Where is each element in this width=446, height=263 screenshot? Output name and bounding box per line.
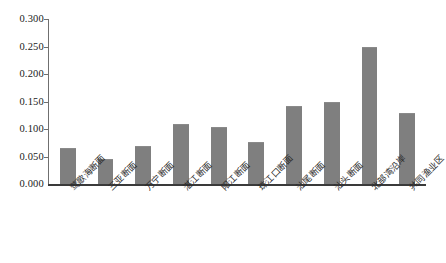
bar-slot [173, 19, 189, 184]
y-axis-tick-mark [44, 19, 49, 20]
bar-slot [135, 19, 151, 184]
bar[interactable] [362, 47, 378, 184]
bar[interactable] [173, 124, 189, 184]
bar-slot [324, 19, 340, 184]
bar-slot [248, 19, 264, 184]
bar[interactable] [324, 102, 340, 184]
y-axis-tick-mark [44, 47, 49, 48]
y-axis-tick-label: 0.200 [0, 69, 44, 80]
bar[interactable] [211, 127, 227, 184]
y-axis-tick-mark [44, 102, 49, 103]
y-axis-tick-mark [44, 74, 49, 75]
bar[interactable] [399, 113, 415, 184]
y-axis-tick-mark [44, 157, 49, 158]
y-axis-tick-label: 0.150 [0, 96, 44, 107]
bar-slot [362, 19, 378, 184]
y-axis-tick-label: 0.250 [0, 41, 44, 52]
bar-slot [211, 19, 227, 184]
x-axis-category-labels: 莺歌海断面三亚断面万宁断面湛江断面阳江断面珠江口断面汕尾断面汕头断面北部湾沿岸共… [49, 186, 426, 263]
y-axis-tick-label: 0.000 [0, 179, 44, 190]
bar[interactable] [248, 142, 264, 184]
y-axis-tick-label: 0.100 [0, 124, 44, 135]
y-axis-tick-mark [44, 129, 49, 130]
bar-slot [60, 19, 76, 184]
y-axis-tick-labels: 0.3000.2500.2000.1500.1000.0500.000 [0, 0, 44, 263]
bar[interactable] [286, 106, 302, 184]
y-axis-tick-label: 0.050 [0, 151, 44, 162]
y-axis-tick-label: 0.300 [0, 14, 44, 25]
